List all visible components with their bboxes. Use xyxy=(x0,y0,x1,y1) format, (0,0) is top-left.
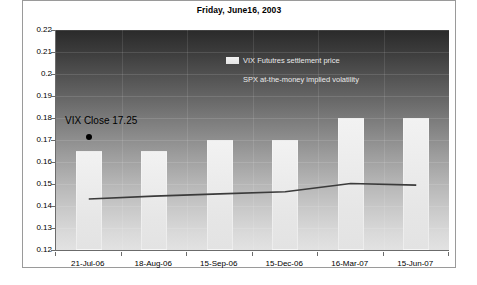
x-axis: 21-Jul-0618-Aug-0615-Sep-0615-Dec-0616-M… xyxy=(0,252,477,272)
y-tick-mark xyxy=(51,184,55,185)
y-tick-mark xyxy=(51,228,55,229)
y-tick-label: 0.19 xyxy=(24,91,52,100)
y-tick-mark xyxy=(51,118,55,119)
x-tick-mark xyxy=(186,252,187,256)
plot-area: VIX Fututres settlement price SPX at-the… xyxy=(55,30,449,251)
y-tick-mark xyxy=(51,162,55,163)
chart-figure: Friday, June16, 2003 0.220.210.20.190.18… xyxy=(0,0,477,285)
y-tick-label: 0.18 xyxy=(24,113,52,122)
y-tick-label: 0.13 xyxy=(24,223,52,232)
x-tick-label: 15-Sep-06 xyxy=(186,259,252,268)
y-tick-mark xyxy=(51,74,55,75)
y-tick-label: 0.15 xyxy=(24,179,52,188)
y-tick-mark xyxy=(51,140,55,141)
y-tick-mark xyxy=(51,250,55,251)
x-tick-mark xyxy=(383,252,384,256)
x-tick-label: 18-Aug-06 xyxy=(121,259,187,268)
vix-close-marker xyxy=(86,134,92,140)
x-tick-mark xyxy=(448,252,449,256)
y-tick-label: 0.22 xyxy=(24,25,52,34)
x-tick-label: 15-Jun-07 xyxy=(383,259,449,268)
vix-close-annotation: VIX Close 17.25 xyxy=(65,115,137,126)
x-tick-label: 21-Jul-06 xyxy=(55,259,121,268)
x-tick-mark xyxy=(317,252,318,256)
y-tick-label: 0.14 xyxy=(24,201,52,210)
y-tick-mark xyxy=(51,30,55,31)
spx-implied-vol-line xyxy=(89,184,417,199)
x-tick-mark xyxy=(121,252,122,256)
y-axis: 0.220.210.20.190.180.170.160.150.140.130… xyxy=(22,0,52,285)
y-tick-mark xyxy=(51,206,55,207)
y-tick-mark xyxy=(51,96,55,97)
y-tick-label: 0.17 xyxy=(24,135,52,144)
x-tick-mark xyxy=(55,252,56,256)
x-tick-label: 16-Mar-07 xyxy=(317,259,383,268)
y-tick-label: 0.21 xyxy=(24,47,52,56)
y-tick-label: 0.16 xyxy=(24,157,52,166)
x-tick-mark xyxy=(252,252,253,256)
y-tick-label: 0.2 xyxy=(24,69,52,78)
x-tick-label: 15-Dec-06 xyxy=(252,259,318,268)
line-series xyxy=(56,30,449,250)
y-tick-mark xyxy=(51,52,55,53)
chart-title: Friday, June16, 2003 xyxy=(22,5,456,15)
